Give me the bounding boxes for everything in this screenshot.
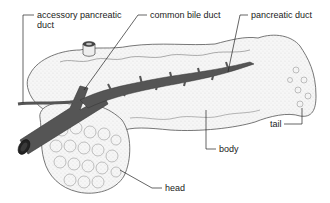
- pancreas-illustration: [0, 0, 330, 203]
- label-accessory-line2: duct: [37, 20, 122, 30]
- label-body: body: [219, 144, 239, 154]
- label-common-bile-duct: common bile duct: [150, 10, 221, 20]
- pancreas-diagram: accessory pancreatic duct common bile du…: [0, 0, 330, 203]
- label-head: head: [165, 183, 185, 193]
- label-accessory-pancreatic-duct: accessory pancreatic duct: [37, 10, 122, 30]
- label-pancreatic-duct: pancreatic duct: [251, 10, 312, 20]
- label-accessory-line1: accessory pancreatic: [37, 10, 122, 20]
- label-tail: tail: [270, 119, 282, 129]
- leader-head: [120, 170, 162, 188]
